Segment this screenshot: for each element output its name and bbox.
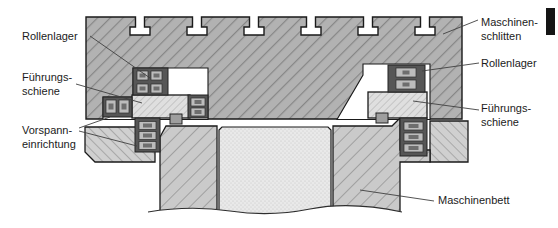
label-fuehrungsschiene-right-2: schiene bbox=[481, 116, 519, 128]
preload-clamp-block-right bbox=[430, 121, 468, 162]
label-fuehrungsschiene-right-1: Führungs- bbox=[481, 102, 531, 114]
label-maschinenschlitten-1: Maschinen- bbox=[481, 16, 538, 28]
corner-bar bbox=[546, 8, 555, 35]
roller-bearing-top-right bbox=[388, 65, 425, 92]
label-rollenlager-left: Rollenlager bbox=[22, 30, 78, 42]
preload-bearing-stack-right bbox=[400, 118, 427, 156]
label-fuehrungsschiene-left-1: Führungs- bbox=[22, 71, 72, 83]
label-vorspanneinrichtung-1: Vorspann- bbox=[22, 124, 72, 136]
diagram-canvas: Rollenlager Führungs- schiene Vorspann- … bbox=[0, 0, 558, 228]
label-maschinenschlitten-2: schlitten bbox=[481, 30, 521, 42]
roller-bearing-side-inner-left bbox=[188, 95, 208, 118]
label-maschinenbett: Maschinenbett bbox=[438, 194, 510, 206]
roller-bearing-side-outer-left bbox=[103, 97, 132, 117]
machine-bed-column-left bbox=[160, 126, 217, 222]
roller-bearing-top-left bbox=[133, 68, 168, 95]
label-vorspanneinrichtung-2: einrichtung bbox=[22, 138, 76, 150]
preload-bearing-stack-left bbox=[135, 118, 160, 152]
diagram-machine-guideway-cross-section: Rollenlager Führungs- schiene Vorspann- … bbox=[0, 0, 558, 228]
label-rollenlager-right: Rollenlager bbox=[481, 57, 537, 69]
label-fuehrungsschiene-left-2: schiene bbox=[22, 85, 60, 97]
screw-left bbox=[170, 114, 182, 124]
screw-right bbox=[376, 113, 388, 123]
